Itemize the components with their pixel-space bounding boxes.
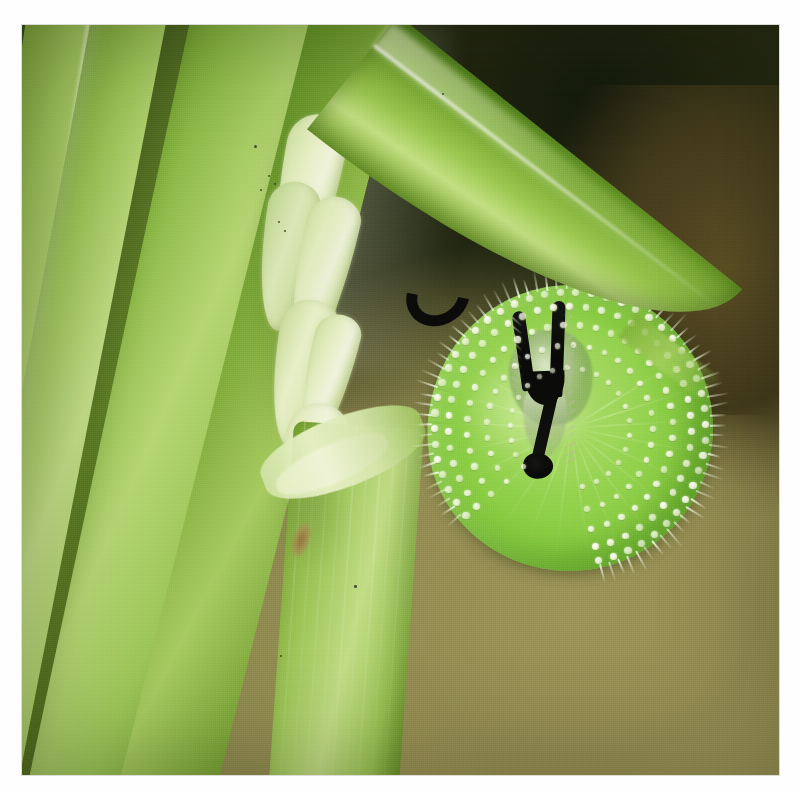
- caterpillar-tubercle: [689, 482, 696, 489]
- caterpillar-spine: [710, 415, 726, 417]
- caterpillar-tubercle: [644, 457, 650, 463]
- caterpillar-tubercle: [460, 366, 467, 373]
- caterpillar-spine: [416, 413, 432, 416]
- caterpillar-tubercle: [649, 514, 656, 521]
- caterpillar-tubercle: [618, 514, 624, 520]
- leaf-speck: [354, 585, 357, 588]
- caterpillar-tubercle: [526, 295, 533, 302]
- caterpillar-tubercle: [479, 340, 486, 347]
- caterpillar-tubercle: [464, 490, 471, 497]
- leaf-speck: [254, 145, 257, 148]
- caterpillar-tubercle: [624, 547, 631, 554]
- caterpillar-tubercle: [487, 403, 493, 409]
- caterpillar-tubercle: [431, 409, 438, 416]
- caterpillar-tubercle: [687, 412, 694, 419]
- caterpillar-tubercle: [509, 438, 514, 443]
- caterpillar-tubercle: [644, 395, 650, 401]
- caterpillar-tubercle: [467, 448, 473, 454]
- caterpillar-tubercle: [669, 435, 675, 441]
- caterpillar-tubercle: [670, 419, 676, 425]
- caterpillar-tubercle: [544, 324, 550, 330]
- caterpillar-tubercle: [660, 502, 667, 509]
- caterpillar-tubercle: [584, 506, 590, 512]
- caterpillar-tubercle: [432, 441, 439, 448]
- caterpillar-tubercle: [464, 416, 470, 422]
- caterpillar-tubercle: [537, 374, 542, 379]
- caterpillar-tubercle: [632, 505, 638, 511]
- caterpillar-tubercle: [519, 313, 526, 320]
- caterpillar-tubercle: [516, 395, 521, 400]
- caterpillar-tubercle: [462, 338, 469, 345]
- caterpillar-tubercle: [644, 494, 650, 500]
- caterpillar-tubercle: [651, 531, 658, 538]
- caterpillar-tubercle: [473, 503, 480, 510]
- caterpillar-tubercle: [471, 463, 477, 469]
- caterpillar-tubercle: [508, 423, 513, 428]
- caterpillar-tubercle: [580, 367, 585, 372]
- caterpillar-tubercle: [488, 451, 494, 457]
- caterpillar-tubercle: [495, 465, 501, 471]
- caterpillar-tubercle: [484, 419, 490, 425]
- leaf-speck: [274, 183, 276, 185]
- caterpillar-tubercle: [472, 384, 478, 390]
- caterpillar-tubercle: [550, 304, 557, 311]
- caterpillar-tubercle: [648, 442, 654, 448]
- leaf-speck: [477, 77, 479, 79]
- caterpillar-tubercle: [453, 381, 460, 388]
- leaf-speck: [284, 230, 286, 232]
- caterpillar-tubercle: [431, 425, 438, 432]
- caterpillar-tubercle: [608, 330, 614, 336]
- caterpillar-tubercle: [462, 512, 469, 519]
- caterpillar-tubercle: [491, 329, 498, 336]
- caterpillar-tubercle: [650, 426, 656, 432]
- caterpillar-tubercle: [683, 460, 690, 467]
- caterpillar-tubercle: [627, 433, 632, 438]
- caterpillar-tubercle: [583, 304, 590, 311]
- caterpillar-tubercle: [667, 403, 673, 409]
- caterpillar-tubercle: [627, 368, 633, 374]
- photograph: [22, 25, 779, 775]
- caterpillar-tubercle: [636, 524, 643, 531]
- caterpillar-tubercle: [557, 289, 564, 296]
- caterpillar-tubercle: [636, 471, 642, 477]
- caterpillar-tubercle: [614, 313, 621, 320]
- caterpillar-tubercle: [511, 300, 518, 307]
- caterpillar-tubercle: [687, 444, 694, 451]
- caterpillar-tubercle: [685, 396, 692, 403]
- caterpillar: [405, 267, 735, 589]
- caterpillar-tubercle: [656, 373, 662, 379]
- caterpillar-tubercle: [445, 364, 452, 371]
- caterpillar-tubercle: [699, 452, 706, 459]
- caterpillar-tubercle: [626, 484, 632, 490]
- caterpillar-tubercle: [539, 347, 545, 353]
- caterpillar-tubercle: [497, 308, 504, 315]
- caterpillar-spine: [710, 425, 726, 427]
- caterpillar-tubercle: [592, 543, 599, 550]
- caterpillar-tubercle: [688, 428, 695, 435]
- caterpillar-tubercle: [438, 379, 445, 386]
- caterpillar-tubercle: [490, 357, 496, 363]
- caterpillar-tubercle: [469, 352, 476, 359]
- caterpillar-tubercle: [594, 372, 599, 377]
- caterpillar-tubercle: [677, 475, 684, 482]
- caterpillar-tubercle: [702, 437, 709, 444]
- caterpillar-tubercle: [663, 387, 669, 393]
- caterpillar-tubercle: [479, 478, 485, 484]
- caterpillar-tubercle: [661, 466, 667, 472]
- caterpillar-tubercle: [666, 451, 672, 457]
- caterpillar-tubercle: [653, 481, 659, 487]
- caterpillar-tubercle: [501, 375, 507, 381]
- caterpillar-tubercle: [577, 322, 583, 328]
- leaf-speck: [278, 221, 280, 223]
- screenshot-root: [0, 0, 802, 793]
